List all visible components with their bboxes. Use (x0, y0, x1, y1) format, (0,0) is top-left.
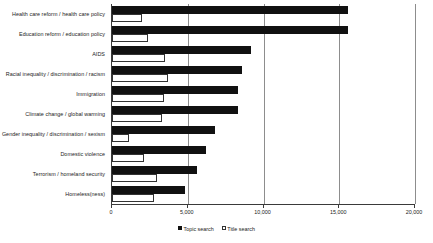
gridline (415, 4, 416, 204)
bar-title-search (112, 94, 164, 102)
x-axis-tick (338, 204, 339, 208)
chart-legend: Topic searchTitle search (0, 224, 433, 233)
category-label: Terrorism / homeland security (0, 171, 105, 178)
bar-topic-search (112, 126, 215, 134)
legend-label: Topic search (184, 226, 214, 232)
bar-topic-search (112, 6, 348, 14)
gridline (188, 4, 189, 204)
category-label: Climate change / global warming (0, 111, 105, 118)
category-label: Homeless(ness) (0, 191, 105, 198)
category-label: AIDS (0, 51, 105, 58)
x-axis-tick-label: 20,000 (394, 209, 433, 216)
bar-title-search (112, 74, 168, 82)
gridline (339, 4, 340, 204)
bar-title-search (112, 34, 148, 42)
bar-title-search (112, 114, 162, 122)
legend-label: Title search (227, 226, 255, 232)
category-axis-labels: Health care reform / health care policyE… (0, 4, 108, 204)
category-label: Domestic violence (0, 151, 105, 158)
bar-title-search (112, 134, 129, 142)
category-label: Immigration (0, 91, 105, 98)
category-label: Education reform / education policy (0, 31, 105, 38)
bar-title-search (112, 54, 165, 62)
x-axis-tick (263, 204, 264, 208)
bar-title-search (112, 194, 154, 202)
x-axis-tick-label: 15,000 (318, 209, 358, 216)
bar-title-search (112, 154, 144, 162)
category-label: Racial inequality / discrimination / rac… (0, 71, 105, 78)
plot-area (111, 4, 414, 204)
category-label: Health care reform / health care policy (0, 11, 105, 18)
bar-topic-search (112, 146, 206, 154)
category-label: Gender inequality / discrimination / sex… (0, 131, 105, 138)
legend-swatch-topic-search (178, 226, 182, 230)
bar-topic-search (112, 26, 348, 34)
bar-topic-search (112, 186, 185, 194)
bar-title-search (112, 174, 157, 182)
x-axis-tick-label: 10,000 (243, 209, 283, 216)
x-axis-tick (111, 204, 112, 208)
bar-chart: Health care reform / health care policyE… (0, 0, 433, 243)
bar-title-search (112, 14, 142, 22)
x-axis-tick-label: 5,000 (167, 209, 207, 216)
bar-topic-search (112, 166, 197, 174)
x-axis-tick (414, 204, 415, 208)
bar-topic-search (112, 46, 251, 54)
gridline (264, 4, 265, 204)
bar-topic-search (112, 86, 238, 94)
x-axis-tick-label: 0 (91, 209, 131, 216)
bar-topic-search (112, 106, 238, 114)
legend-item: Title search (222, 224, 255, 233)
legend-swatch-title-search (222, 226, 226, 230)
legend-item: Topic search (178, 224, 214, 233)
x-axis-tick (187, 204, 188, 208)
bar-topic-search (112, 66, 242, 74)
